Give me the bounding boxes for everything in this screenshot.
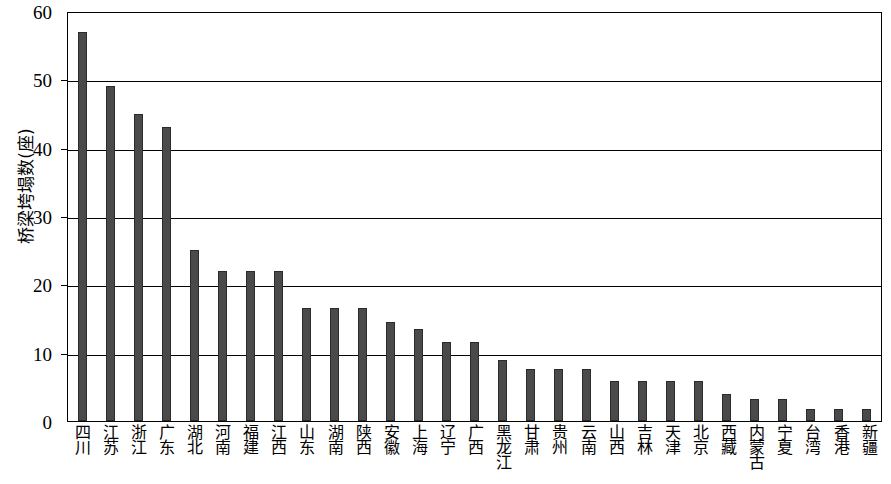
bar-slot [292, 13, 320, 421]
bar [554, 369, 563, 421]
y-axis-tick-labels: 0102030405060 [0, 0, 62, 430]
bar-slot [685, 13, 713, 421]
x-axis-tick-label: 台湾 [804, 424, 819, 484]
bar-slot [376, 13, 404, 421]
bar-slot [432, 13, 460, 421]
bar-slot [573, 13, 601, 421]
x-axis-tick-label: 山东 [298, 424, 313, 484]
x-label-slot: 江西 [264, 424, 292, 484]
bar [106, 86, 115, 421]
bar-slot [236, 13, 264, 421]
x-axis-tick-label: 黑龙江 [495, 424, 510, 484]
x-label-slot: 湖北 [179, 424, 207, 484]
x-axis-tick-label: 湖北 [186, 424, 201, 484]
x-label-slot: 吉林 [629, 424, 657, 484]
x-axis-tick-label: 河南 [214, 424, 229, 484]
bar-slot [96, 13, 124, 421]
bar [470, 342, 479, 421]
bar [694, 381, 703, 421]
y-axis-tick-label: 0 [43, 413, 53, 432]
bar [582, 369, 591, 421]
bar [78, 32, 87, 422]
x-label-slot: 甘肃 [517, 424, 545, 484]
bar-slot [488, 13, 516, 421]
x-axis-tick-label: 香港 [833, 424, 848, 484]
x-label-slot: 上海 [404, 424, 432, 484]
x-axis-tick-labels: 四川江苏浙江广东湖北河南福建江西山东湖南陕西安徽上海辽宁广西黑龙江甘肃贵州云南山… [67, 424, 882, 484]
x-label-slot: 台湾 [798, 424, 826, 484]
x-label-slot: 内蒙古 [742, 424, 770, 484]
bar [778, 399, 787, 421]
x-axis-tick-label: 甘肃 [523, 424, 538, 484]
x-axis-tick-label: 云南 [580, 424, 595, 484]
x-label-slot: 浙江 [123, 424, 151, 484]
x-axis-tick-label: 辽宁 [439, 424, 454, 484]
x-axis-tick-label: 宁夏 [776, 424, 791, 484]
x-label-slot: 安徽 [376, 424, 404, 484]
bar [190, 250, 199, 421]
x-axis-tick-label: 江苏 [102, 424, 117, 484]
y-axis-tick-label: 10 [33, 344, 52, 363]
x-axis-tick-label: 安徽 [383, 424, 398, 484]
bar [134, 114, 143, 422]
bar-slot [517, 13, 545, 421]
y-axis-tick-label: 60 [33, 3, 52, 22]
x-label-slot: 西藏 [714, 424, 742, 484]
x-label-slot: 天津 [657, 424, 685, 484]
bar-slot [629, 13, 657, 421]
bar [414, 329, 423, 421]
x-axis-tick-label: 贵州 [551, 424, 566, 484]
bar-slot [460, 13, 488, 421]
bar [498, 360, 507, 422]
x-label-slot: 山西 [601, 424, 629, 484]
plot-area [67, 12, 882, 422]
x-label-slot: 新疆 [854, 424, 882, 484]
bar-slot [853, 13, 881, 421]
bar-slot [320, 13, 348, 421]
bar-slot [601, 13, 629, 421]
bar-slot [769, 13, 797, 421]
x-axis-tick-label: 广东 [158, 424, 173, 484]
y-axis-tick-label: 50 [33, 71, 52, 90]
bar-slot [825, 13, 853, 421]
x-axis-tick-label: 福建 [242, 424, 257, 484]
x-axis-tick-label: 湖南 [327, 424, 342, 484]
bar-slot [797, 13, 825, 421]
x-axis-tick-label: 吉林 [636, 424, 651, 484]
bar [162, 127, 171, 421]
x-label-slot: 湖南 [320, 424, 348, 484]
bar-slot [264, 13, 292, 421]
x-label-slot: 黑龙江 [489, 424, 517, 484]
x-axis-tick-label: 广西 [467, 424, 482, 484]
x-label-slot: 四川 [67, 424, 95, 484]
x-label-slot: 宁夏 [770, 424, 798, 484]
x-label-slot: 广西 [461, 424, 489, 484]
x-label-slot: 山东 [292, 424, 320, 484]
x-label-slot: 云南 [573, 424, 601, 484]
bar [806, 409, 815, 421]
y-axis-tick-label: 20 [33, 276, 52, 295]
x-label-slot: 福建 [236, 424, 264, 484]
bar [526, 369, 535, 421]
x-label-slot: 江苏 [95, 424, 123, 484]
bar-slot [124, 13, 152, 421]
bar [442, 342, 451, 421]
x-label-slot: 河南 [208, 424, 236, 484]
x-label-slot: 贵州 [545, 424, 573, 484]
x-label-slot: 辽宁 [432, 424, 460, 484]
bar-slot [208, 13, 236, 421]
bar [386, 322, 395, 421]
bar-slot [713, 13, 741, 421]
bar [246, 271, 255, 421]
x-axis-tick-label: 浙江 [130, 424, 145, 484]
bar [834, 409, 843, 421]
x-axis-tick-label: 北京 [692, 424, 707, 484]
y-axis-tick-label: 30 [33, 208, 52, 227]
bar-slot [741, 13, 769, 421]
y-axis-tick-label: 40 [33, 139, 52, 158]
bar-slot [348, 13, 376, 421]
bar [750, 399, 759, 421]
bar-series [68, 13, 881, 421]
bar-slot [152, 13, 180, 421]
x-label-slot: 香港 [826, 424, 854, 484]
